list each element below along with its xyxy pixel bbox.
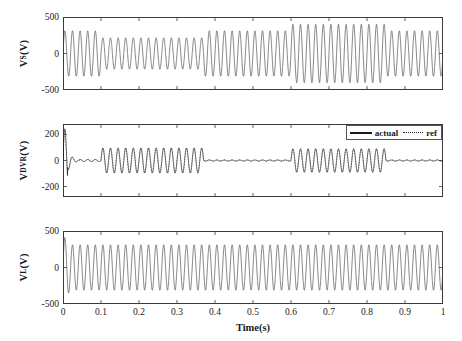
xtick: 0.4 bbox=[209, 307, 221, 317]
legend-label-ref: ref bbox=[426, 128, 437, 138]
xtick: 0.2 bbox=[133, 307, 145, 317]
yticks-dvr-voltage: 200 0 -200 bbox=[24, 124, 62, 197]
ytick: -500 bbox=[42, 85, 62, 95]
xtick: 0.5 bbox=[247, 307, 259, 317]
legend-item-ref: ref bbox=[403, 128, 437, 138]
legend-line-solid-icon bbox=[350, 132, 372, 134]
waveform-load-voltage bbox=[63, 231, 443, 304]
ytick: -500 bbox=[42, 299, 62, 309]
xtick: 0 bbox=[61, 307, 66, 317]
waveform-source-voltage bbox=[63, 17, 443, 90]
ytick: -200 bbox=[42, 182, 62, 192]
xtick: 0.9 bbox=[399, 307, 411, 317]
xtick: 0.6 bbox=[285, 307, 297, 317]
legend: actual ref bbox=[346, 125, 442, 140]
plot-source-voltage bbox=[63, 17, 443, 90]
xticks: 00.10.20.30.40.50.60.70.80.91 bbox=[63, 307, 443, 321]
plot-load-voltage bbox=[63, 231, 443, 304]
xtick: 0.1 bbox=[95, 307, 107, 317]
xtick: 0.7 bbox=[323, 307, 335, 317]
legend-line-dotted-icon bbox=[403, 132, 423, 133]
xtick: 1 bbox=[441, 307, 446, 317]
xaxis-title: Time(s) bbox=[63, 322, 443, 333]
ytick: 200 bbox=[45, 129, 62, 139]
ytick: 0 bbox=[54, 49, 62, 59]
plot-dvr-voltage: actual ref bbox=[63, 124, 443, 197]
xtick: 0.3 bbox=[171, 307, 183, 317]
xtick: 0.8 bbox=[361, 307, 373, 317]
yticks-source-voltage: 500 0 -500 bbox=[24, 17, 62, 90]
yticks-load-voltage: 500 0 -500 bbox=[24, 231, 62, 304]
ytick: 0 bbox=[54, 263, 62, 273]
ytick: 500 bbox=[45, 226, 62, 236]
ytick: 500 bbox=[45, 12, 62, 22]
ytick: 0 bbox=[54, 156, 62, 166]
legend-label-actual: actual bbox=[375, 128, 399, 138]
legend-item-actual: actual bbox=[350, 128, 399, 138]
dvr-simulation-figure: VS(V) 500 0 -500 actual ref VDVR(V) 200 … bbox=[0, 0, 462, 341]
